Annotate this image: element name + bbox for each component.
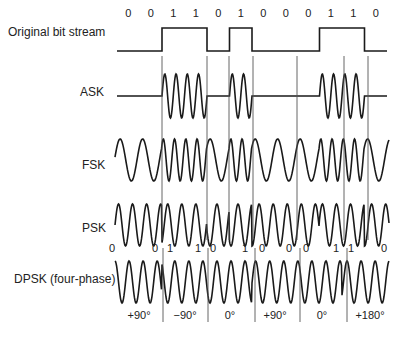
bit-label: 0 bbox=[283, 7, 289, 19]
waveform-graphics bbox=[0, 0, 408, 339]
dpsk-bit-label: 1 bbox=[333, 242, 339, 254]
dpsk-bit-label: 0 bbox=[109, 242, 115, 254]
dpsk-bit-label: 0 bbox=[259, 242, 265, 254]
dpsk-bit-label: 1 bbox=[348, 242, 354, 254]
phase-shift-label: +90° bbox=[127, 309, 150, 321]
label-fsk: FSK bbox=[82, 158, 105, 172]
label-dpsk: DPSK (four-phase) bbox=[14, 272, 115, 286]
bit-label: 0 bbox=[373, 7, 379, 19]
dpsk-waveform bbox=[115, 261, 389, 303]
psk-waveform bbox=[115, 204, 389, 246]
dpsk-bit-label: 0 bbox=[381, 242, 387, 254]
dpsk-bit-label: 1 bbox=[242, 242, 248, 254]
bit-label: 1 bbox=[170, 7, 176, 19]
phase-shift-label: +180° bbox=[355, 309, 384, 321]
bit-stream-line bbox=[117, 28, 387, 51]
bit-label: 0 bbox=[215, 7, 221, 19]
label-psk: PSK bbox=[82, 221, 106, 235]
label-ask: ASK bbox=[80, 85, 104, 99]
dpsk-bit-label: 0 bbox=[303, 242, 309, 254]
bit-label: 1 bbox=[238, 7, 244, 19]
ask-waveform bbox=[117, 74, 387, 118]
bit-label: 0 bbox=[305, 7, 311, 19]
dpsk-bit-label: 0 bbox=[152, 242, 158, 254]
phase-shift-label: 0° bbox=[225, 309, 236, 321]
bit-label: 1 bbox=[328, 7, 334, 19]
label-original-bit-stream: Original bit stream bbox=[8, 25, 105, 39]
dpsk-bit-label: 1 bbox=[167, 242, 173, 254]
dpsk-bit-label: 0 bbox=[286, 242, 292, 254]
modulation-diagram: Original bit stream ASK FSK PSK DPSK (fo… bbox=[0, 0, 408, 339]
bit-label: 0 bbox=[148, 7, 154, 19]
dpsk-bit-label: 1 bbox=[195, 242, 201, 254]
bit-label: 1 bbox=[193, 7, 199, 19]
phase-shift-label: +90° bbox=[263, 309, 286, 321]
bit-label: 0 bbox=[125, 7, 131, 19]
phase-shift-label: 0° bbox=[317, 309, 328, 321]
bit-label: 0 bbox=[260, 7, 266, 19]
dpsk-bit-label: 0 bbox=[210, 242, 216, 254]
fsk-waveform bbox=[115, 139, 389, 181]
phase-shift-label: −90° bbox=[173, 309, 196, 321]
bit-label: 1 bbox=[350, 7, 356, 19]
